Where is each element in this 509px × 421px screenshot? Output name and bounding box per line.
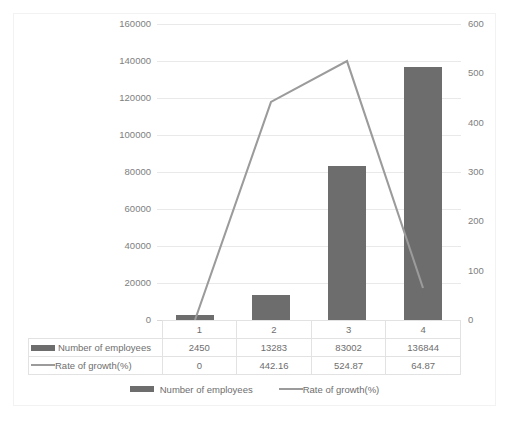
- left-axis-tick-40000: 40000: [85, 241, 151, 251]
- chart-container: 160000 140000 120000 100000 80000 60000 …: [0, 0, 509, 421]
- right-axis-tick-200: 200: [468, 216, 508, 226]
- legend-item-employees: Number of employees: [130, 384, 253, 395]
- table-corner-blank: [29, 321, 163, 339]
- table-row: Number of employees 2450 13283 83002 136…: [29, 339, 461, 357]
- table-cell-employees-4: 136844: [386, 339, 461, 357]
- left-axis-tick-80000: 80000: [85, 167, 151, 177]
- plot-area: [157, 24, 461, 320]
- line-swatch-icon: [279, 388, 303, 390]
- right-axis-tick-400: 400: [468, 118, 508, 128]
- left-axis-tick-20000: 20000: [85, 278, 151, 288]
- table-cell-employees-2: 13283: [237, 339, 312, 357]
- legend-label-growth: Rate of growth(%): [303, 384, 380, 395]
- table-row: Rate of growth(%) 0 442.16 524.87 64.87: [29, 357, 461, 375]
- left-axis-tick-160000: 160000: [85, 19, 151, 29]
- right-axis-tick-0: 0: [468, 315, 508, 325]
- left-axis-tick-140000: 140000: [85, 56, 151, 66]
- table-cell-employees-3: 83002: [311, 339, 386, 357]
- bar-category-3: [328, 166, 366, 320]
- table-header-cell-1: 1: [162, 321, 237, 339]
- table-cell-growth-3: 524.87: [311, 357, 386, 375]
- bar-category-4: [404, 67, 442, 320]
- table-header-row: 1 2 3 4: [29, 321, 461, 339]
- line-swatch-icon: [31, 364, 55, 366]
- table-cell-growth-1: 0: [162, 357, 237, 375]
- table-header-cell-4: 4: [386, 321, 461, 339]
- chart-legend: Number of employees Rate of growth(%): [13, 384, 496, 395]
- legend-label-employees: Number of employees: [160, 384, 253, 395]
- right-axis-tick-600: 600: [468, 19, 508, 29]
- gridline-140000: [157, 61, 461, 62]
- right-axis-tick-500: 500: [468, 68, 508, 78]
- data-table: 1 2 3 4 Number of employees 2450 13283 8…: [28, 320, 461, 375]
- table-cell-growth-4: 64.87: [386, 357, 461, 375]
- right-axis-tick-300: 300: [468, 167, 508, 177]
- table-header-cell-2: 2: [237, 321, 312, 339]
- bar-swatch-icon: [130, 386, 154, 392]
- table-row-label-text: Rate of growth(%): [55, 360, 132, 371]
- bar-category-2: [252, 295, 290, 320]
- left-axis-tick-120000: 120000: [85, 93, 151, 103]
- bar-swatch-icon: [31, 345, 55, 351]
- table-row-label-employees: Number of employees: [29, 339, 163, 357]
- table-row-label-text: Number of employees: [58, 342, 151, 353]
- table-row-label-growth: Rate of growth(%): [29, 357, 163, 375]
- gridline-160000: [157, 24, 461, 25]
- left-axis-tick-100000: 100000: [85, 130, 151, 140]
- table-header-cell-3: 3: [311, 321, 386, 339]
- table-cell-growth-2: 442.16: [237, 357, 312, 375]
- table-cell-employees-1: 2450: [162, 339, 237, 357]
- right-axis-tick-100: 100: [468, 266, 508, 276]
- legend-item-growth: Rate of growth(%): [279, 384, 380, 395]
- left-axis-tick-60000: 60000: [85, 204, 151, 214]
